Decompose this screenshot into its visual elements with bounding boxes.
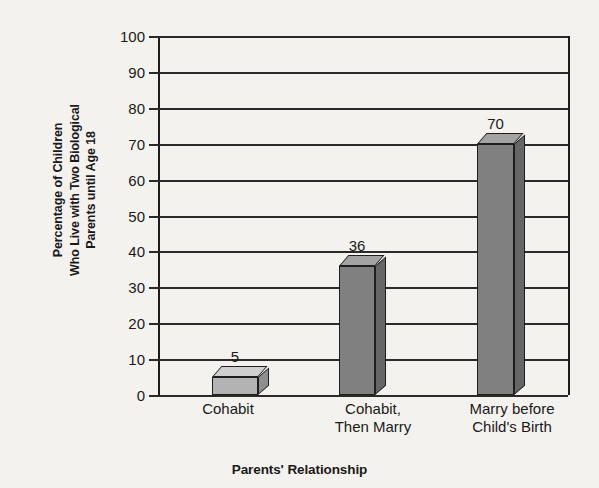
y-axis-tick-label-20: 20	[103, 316, 145, 331]
y-axis-title-line-2: Who Live with Two Biological	[67, 104, 84, 276]
x-axis-label-3: Marry beforeChild's Birth	[412, 400, 599, 436]
gridline-100	[160, 36, 568, 38]
y-axis-title-line-3: Parents until Age 18	[83, 131, 100, 249]
y-axis-tick-label-70: 70	[103, 136, 145, 151]
y-axis-tick-70	[149, 144, 160, 146]
y-axis-tick-label-40: 40	[103, 244, 145, 259]
gridline-90	[160, 72, 568, 74]
bar-2-side-face	[375, 256, 386, 395]
bar-3-front-face	[477, 144, 514, 395]
bar-2-front-face	[339, 266, 375, 395]
gridline-0	[160, 395, 568, 397]
y-axis-tick-label-90: 90	[103, 64, 145, 79]
y-axis-tick-100	[149, 36, 160, 38]
bar-1-front-face	[212, 377, 258, 395]
x-axis-label-3-line-1: Marry before	[412, 400, 599, 418]
y-axis-tick-30	[149, 287, 160, 289]
y-axis-title: Percentage of Children Who Live with Two…	[45, 25, 105, 355]
y-axis-tick-label-50: 50	[103, 208, 145, 223]
y-axis-tick-label-80: 80	[103, 100, 145, 115]
y-axis-tick-label-100: 100	[103, 29, 145, 44]
y-axis-tick-40	[149, 251, 160, 253]
y-axis-tick-80	[149, 108, 160, 110]
bar-2-value-label: 36	[339, 238, 375, 253]
y-axis-tick-label-10: 10	[103, 352, 145, 367]
bar-chart: Percentage of Children Who Live with Two…	[0, 0, 599, 488]
bar-3: 70	[477, 144, 514, 395]
bar-1-value-label: 5	[212, 349, 258, 364]
bar-1: 5	[212, 377, 258, 395]
y-axis-tick-90	[149, 72, 160, 74]
y-axis-tick-label-60: 60	[103, 172, 145, 187]
y-axis-tick-50	[149, 216, 160, 218]
plot-area: 1009080706050403020100 53670	[158, 36, 570, 395]
y-axis-tick-0	[149, 395, 160, 397]
y-axis-tick-10	[149, 359, 160, 361]
bar-3-side-face	[514, 134, 525, 395]
y-axis-title-line-1: Percentage of Children	[50, 123, 67, 258]
x-axis-title: Parents' Relationship	[0, 462, 599, 477]
y-axis-tick-20	[149, 323, 160, 325]
gridline-80	[160, 108, 568, 110]
x-axis-label-3-line-2: Child's Birth	[412, 418, 599, 436]
bar-3-value-label: 70	[477, 116, 514, 131]
y-axis-tick-60	[149, 180, 160, 182]
bar-2: 36	[339, 266, 375, 395]
y-axis-tick-label-30: 30	[103, 280, 145, 295]
